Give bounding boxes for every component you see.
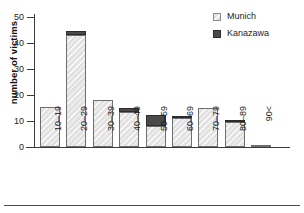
legend-swatch-munich-icon	[213, 13, 221, 21]
x-tick-label: 20–29	[80, 106, 89, 152]
x-tick-label: 70–79	[212, 106, 221, 152]
x-tick-label: 10–19	[54, 106, 63, 152]
y-tick	[27, 17, 34, 18]
x-tick-label: 50–59	[160, 106, 169, 152]
x-tick-label: 90<	[265, 106, 274, 152]
bar-segment-kanazawa	[66, 31, 86, 35]
x-axis-line	[26, 147, 290, 148]
y-tick	[27, 69, 34, 70]
y-tick-label: 10	[0, 117, 24, 126]
y-tick-label: 40	[0, 39, 24, 48]
bar-chart: number of victims 01020304050 10–1920–29…	[0, 0, 304, 213]
legend-swatch-kanazawa-icon	[213, 30, 221, 38]
x-tick-label: 30–39	[107, 106, 116, 152]
y-tick-label: 30	[0, 65, 24, 74]
x-tick-label: 40–49	[133, 106, 142, 152]
y-tick	[27, 147, 34, 148]
legend-item-kanazawa[interactable]: Kanazawa	[213, 27, 269, 40]
y-tick	[27, 43, 34, 44]
x-tick-label: 60–69	[186, 106, 195, 152]
y-tick-label: 20	[0, 91, 24, 100]
y-tick-label: 50	[0, 13, 24, 22]
bottom-divider	[4, 205, 300, 206]
chart-legend: MunichKanazawa	[213, 10, 269, 44]
legend-label: Kanazawa	[227, 29, 269, 38]
y-tick-label: 0	[0, 143, 24, 152]
y-axis-line	[34, 14, 35, 148]
y-tick	[27, 95, 34, 96]
x-tick-label: 80–89	[239, 106, 248, 152]
legend-label: Munich	[227, 12, 256, 21]
legend-item-munich[interactable]: Munich	[213, 10, 269, 23]
y-tick	[27, 121, 34, 122]
